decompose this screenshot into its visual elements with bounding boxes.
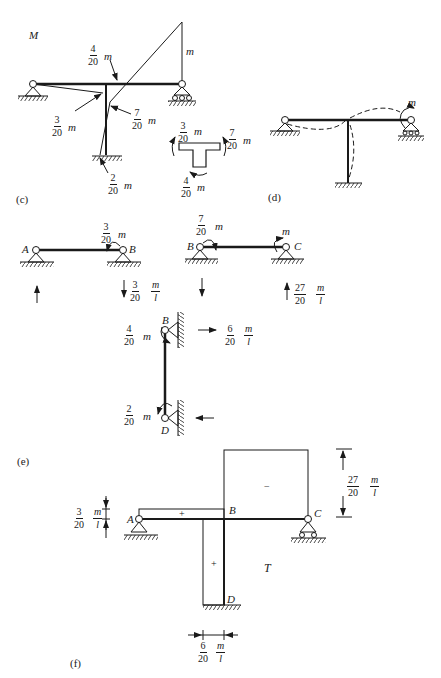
dim-bc: 2720 xyxy=(347,475,359,498)
diagram-canvas xyxy=(0,0,441,678)
sign-bc: − xyxy=(264,481,270,492)
joint-label-7-20-m: 720 xyxy=(227,128,237,151)
sign-bd: + xyxy=(211,558,217,569)
node-d-f: D xyxy=(227,594,235,605)
reaction-bc-c: 2720 xyxy=(294,283,306,306)
moment-label-c: m xyxy=(186,46,194,57)
moment-bc-b: 720 xyxy=(196,214,206,237)
panel-f-torsion-diagram xyxy=(102,449,352,640)
label-3-20-m: 320 xyxy=(52,115,62,138)
node-d-e: D xyxy=(161,425,169,436)
joint-label-3-20-m: 320 xyxy=(178,121,188,144)
node-a-f: A xyxy=(127,514,134,525)
node-b-f: B xyxy=(229,505,236,516)
panel-label-d: (d) xyxy=(268,191,281,203)
moment-bc-c: m xyxy=(282,226,290,237)
sign-ab: + xyxy=(179,508,185,519)
moment-label-d: m xyxy=(408,97,416,108)
dim-bd: 620 xyxy=(198,641,208,664)
node-b-e-bc: B xyxy=(187,241,194,252)
panel-e-free-bodies xyxy=(20,238,304,436)
node-c-f: C xyxy=(314,508,321,519)
node-b-e-ab: B xyxy=(129,244,136,255)
moment-bd-b: 420 xyxy=(124,324,134,347)
reaction-ab-b: 320 xyxy=(130,280,140,303)
joint-label-4-20-m: 420 xyxy=(181,176,191,199)
pin-support-a xyxy=(25,87,41,96)
roller-support-c xyxy=(174,87,190,95)
moment-ab-b: 320 xyxy=(101,222,111,245)
torsion-title: T xyxy=(264,562,271,574)
label-2-20-m: 220 xyxy=(108,173,118,196)
node-c-e: C xyxy=(294,241,301,252)
panel-label-c: (c) xyxy=(16,193,28,205)
panel-d-deflected-shape xyxy=(270,107,424,188)
label-7-20-m: 720 xyxy=(132,108,142,131)
dim-ab: 320 xyxy=(74,507,84,530)
node-b-e-bd: B xyxy=(162,315,169,326)
panel-label-f: (f) xyxy=(70,657,81,669)
reaction-bd-b: 620 xyxy=(225,324,235,347)
moment-line-bc xyxy=(110,22,182,102)
moment-bd-d: 220 xyxy=(124,404,134,427)
joint-free-body xyxy=(179,143,220,167)
node-a-e: A xyxy=(22,244,29,255)
panel-label-e: (e) xyxy=(17,455,29,467)
moment-line-ab xyxy=(33,84,103,93)
label-4-20-m: 420 xyxy=(88,44,98,67)
moment-diagram-title: M xyxy=(29,30,38,41)
panel-c-moment-diagram xyxy=(18,22,226,175)
